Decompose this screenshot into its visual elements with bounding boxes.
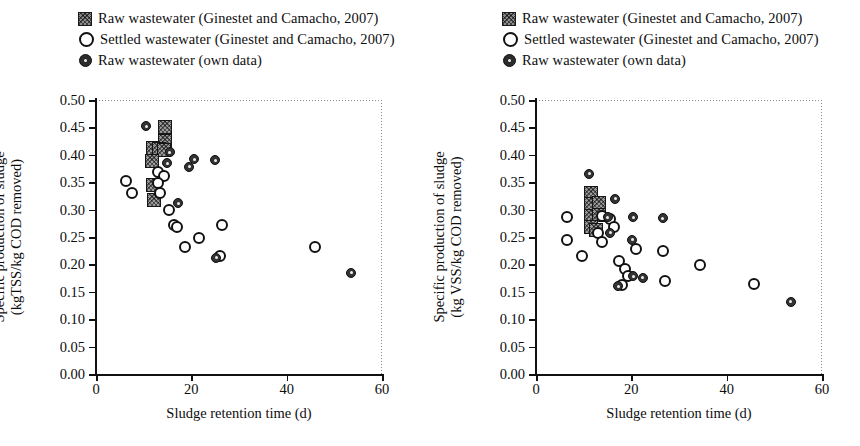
- y-axis-tick: [89, 347, 96, 349]
- hatched-square-marker-icon: [78, 12, 92, 26]
- y-axis-tick-label: 0.50: [500, 92, 525, 109]
- data-point-filled-dot: [610, 194, 620, 204]
- y-axis-tick-label: 0.45: [60, 119, 85, 136]
- data-point-open-circle: [120, 175, 132, 187]
- y-axis-tick-label: 0.40: [500, 146, 525, 163]
- open-circle-marker-icon: [503, 32, 518, 47]
- legend-right: Raw wastewater (Ginestet and Camacho, 20…: [502, 8, 819, 71]
- legend-left: Raw wastewater (Ginestet and Camacho, 20…: [78, 8, 395, 71]
- y-axis-tick-label: 0.25: [500, 229, 525, 246]
- data-point-filled-dot: [603, 212, 613, 222]
- y-axis-tick: [529, 347, 536, 349]
- data-point-filled-dot: [638, 273, 648, 283]
- data-point-hatched-square: [158, 120, 172, 134]
- y-axis-tick-label: 0.50: [60, 92, 85, 109]
- x-axis-title: Sludge retention time (d): [536, 405, 822, 422]
- y-axis-tick-label: 0.05: [500, 338, 525, 355]
- hatched-square-marker-icon: [502, 12, 516, 26]
- y-axis-tick-label: 0.35: [500, 174, 525, 191]
- data-point-filled-dot: [165, 147, 175, 157]
- y-axis-tick-label: 0.25: [60, 229, 85, 246]
- plot-frame-right: [821, 100, 822, 374]
- data-point-open-circle: [179, 241, 191, 253]
- y-axis-tick: [529, 127, 536, 129]
- y-axis-tick: [529, 292, 536, 294]
- y-axis-tick: [89, 374, 96, 376]
- y-axis-tick-label: 0.00: [500, 366, 525, 383]
- y-axis-tick: [89, 127, 96, 129]
- y-axis-tick: [529, 319, 536, 321]
- x-axis-tick-label: 40: [279, 381, 294, 398]
- x-axis-tick: [382, 374, 384, 381]
- x-axis-tick-label: 60: [375, 381, 390, 398]
- data-point-open-circle: [154, 187, 166, 199]
- data-point-filled-dot: [346, 268, 356, 278]
- x-axis-tick: [96, 374, 98, 381]
- legend-item-label: Raw wastewater (own data): [522, 53, 686, 68]
- data-point-filled-dot: [141, 121, 151, 131]
- y-axis-tick: [89, 237, 96, 239]
- y-axis-tick-label: 0.20: [500, 256, 525, 273]
- data-point-open-circle: [309, 241, 321, 253]
- y-axis-tick-label: 0.15: [60, 283, 85, 300]
- y-axis-tick: [89, 182, 96, 184]
- y-axis-tick: [89, 100, 96, 102]
- data-point-filled-dot: [628, 212, 638, 222]
- legend-item: Raw wastewater (Ginestet and Camacho, 20…: [78, 8, 395, 29]
- x-axis-tick: [631, 374, 633, 381]
- legend-item: Settled wastewater (Ginestet and Camacho…: [78, 29, 395, 50]
- y-axis-tick-label: 0.00: [60, 366, 85, 383]
- data-point-filled-dot: [786, 297, 796, 307]
- scatter-plot-area-left: 0.000.050.100.150.200.250.300.350.400.45…: [96, 100, 382, 374]
- data-point-filled-dot: [613, 281, 623, 291]
- y-axis-tick: [89, 292, 96, 294]
- data-point-filled-dot: [628, 271, 638, 281]
- legend-item: Raw wastewater (Ginestet and Camacho, 20…: [502, 8, 819, 29]
- y-axis-tick: [529, 374, 536, 376]
- data-point-open-circle: [694, 259, 706, 271]
- legend-item-label: Settled wastewater (Ginestet and Camacho…: [100, 32, 395, 47]
- y-axis-tick-label: 0.15: [500, 283, 525, 300]
- data-point-open-circle: [193, 232, 205, 244]
- x-axis-line: [535, 374, 823, 376]
- legend-item: Raw wastewater (own data): [78, 50, 395, 71]
- data-point-filled-dot: [210, 155, 220, 165]
- y-axis-tick-label: 0.05: [60, 338, 85, 355]
- data-point-filled-dot: [627, 235, 637, 245]
- y-axis-tick: [529, 182, 536, 184]
- y-axis-tick-label: 0.35: [60, 174, 85, 191]
- data-point-open-circle: [126, 187, 138, 199]
- data-point-filled-dot: [211, 253, 221, 263]
- data-point-filled-dot: [605, 228, 615, 238]
- x-axis-tick: [822, 374, 824, 381]
- filled-dot-marker-icon: [79, 54, 92, 67]
- plot-frame-right: [381, 100, 382, 374]
- open-circle-marker-icon: [79, 32, 94, 47]
- y-axis-title: Specific production of sludge (kg VSS/kg…: [431, 151, 465, 322]
- data-point-open-circle: [576, 250, 588, 262]
- x-axis-tick-label: 40: [719, 381, 734, 398]
- x-axis-tick-label: 0: [532, 381, 539, 398]
- data-point-open-circle: [657, 245, 669, 257]
- data-point-open-circle: [748, 278, 760, 290]
- y-axis-tick-label: 0.30: [500, 201, 525, 218]
- x-axis-tick: [727, 374, 729, 381]
- filled-dot-marker-icon: [503, 54, 516, 67]
- data-point-filled-dot: [658, 213, 668, 223]
- y-axis-tick-label: 0.10: [60, 311, 85, 328]
- x-axis-tick: [287, 374, 289, 381]
- data-point-open-circle: [216, 219, 228, 231]
- data-point-open-circle: [659, 275, 671, 287]
- data-point-filled-dot: [162, 158, 172, 168]
- x-axis-tick-label: 0: [92, 381, 99, 398]
- y-axis-title: Specific production of sludge (kgTSS/kg …: [0, 151, 25, 322]
- data-point-open-circle: [561, 211, 573, 223]
- x-axis-line: [95, 374, 383, 376]
- x-axis-tick-label: 60: [815, 381, 830, 398]
- legend-item-label: Raw wastewater (own data): [98, 53, 262, 68]
- chart-panel-right: Raw wastewater (Ginestet and Camacho, 20…: [430, 0, 860, 446]
- x-axis-tick: [191, 374, 193, 381]
- y-axis-tick: [89, 155, 96, 157]
- x-axis-tick-label: 20: [184, 381, 199, 398]
- data-point-open-circle: [596, 236, 608, 248]
